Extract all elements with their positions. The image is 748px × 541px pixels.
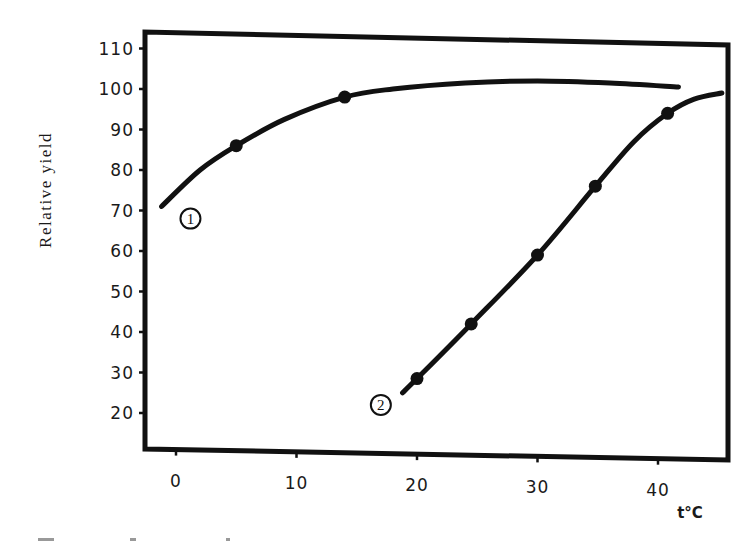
data-point-marker (661, 107, 674, 120)
series-2-curve (403, 93, 722, 393)
data-point-marker (230, 139, 243, 152)
y-tick-label: 80 (110, 160, 134, 180)
series-2: 2 (371, 93, 722, 415)
plot-frame (145, 32, 728, 460)
x-tick-label: 40 (646, 480, 670, 500)
y-tick-label: 110 (99, 39, 134, 59)
x-tick-label: 10 (285, 473, 309, 493)
y-tick-label: 70 (110, 201, 134, 221)
series-1-label: 1 (180, 209, 200, 229)
x-tick-label: 30 (526, 477, 550, 497)
x-tick-label: 20 (405, 475, 429, 495)
y-tick-label: 50 (110, 282, 134, 302)
data-point-marker (531, 249, 544, 262)
data-point-marker (465, 317, 478, 330)
y-tick-label: 90 (110, 120, 134, 140)
relative-yield-chart: 2030405060708090100110 010203040 Relativ… (0, 0, 748, 541)
y-tick-label: 40 (110, 322, 134, 342)
svg-text:2: 2 (377, 397, 385, 413)
y-tick-label: 20 (110, 403, 134, 423)
y-axis-label: Relative yield (36, 132, 55, 248)
data-point-marker (589, 180, 602, 193)
x-tick-label: 0 (170, 471, 182, 491)
y-axis-ticks: 2030405060708090100110 (99, 39, 145, 424)
y-tick-label: 30 (110, 363, 134, 383)
series-layer: 12 (162, 81, 722, 415)
plot-border (145, 32, 728, 460)
y-tick-label: 60 (110, 241, 134, 261)
series-1: 1 (162, 81, 679, 229)
data-point-marker (411, 372, 424, 385)
data-point-marker (338, 91, 351, 104)
x-axis-unit-label: t°C (677, 504, 703, 522)
svg-text:1: 1 (187, 211, 195, 227)
series-2-label: 2 (371, 395, 391, 415)
y-tick-label: 100 (99, 79, 134, 99)
